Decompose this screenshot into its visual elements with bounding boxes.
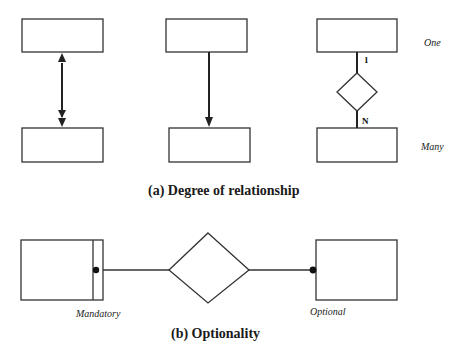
cardinality-many: N [362, 116, 369, 126]
arrowhead-down-icon [58, 110, 66, 118]
entity-box-b-left [21, 240, 103, 300]
label-many: Many [421, 141, 444, 152]
label-one: One [424, 37, 441, 48]
entity-box-a2-top [166, 19, 247, 52]
entity-box-a1-top [22, 19, 103, 52]
entity-box-b-right [316, 240, 397, 300]
relationship-diamond-b [169, 233, 249, 303]
relationship-diamond-a3 [337, 73, 377, 111]
entity-box-a3-bottom [317, 128, 397, 162]
entity-box-a2-bottom [169, 128, 250, 162]
entity-box-a3-top [317, 19, 397, 52]
entity-box-a1-bottom [22, 128, 103, 162]
optional-dot-icon [310, 267, 317, 274]
mandatory-dot-icon [93, 267, 99, 273]
arrowhead-down-icon [58, 118, 66, 127]
caption-degree-of-relationship: (a) Degree of relationship [148, 183, 300, 199]
arrowhead-up-icon [58, 53, 66, 62]
label-mandatory: Mandatory [76, 308, 120, 319]
caption-optionality: (b) Optionality [171, 326, 260, 342]
cardinality-one: 1 [364, 55, 369, 65]
arrowhead-down-icon [205, 117, 213, 127]
label-optional: Optional [310, 306, 346, 317]
er-diagram-canvas [0, 0, 461, 354]
